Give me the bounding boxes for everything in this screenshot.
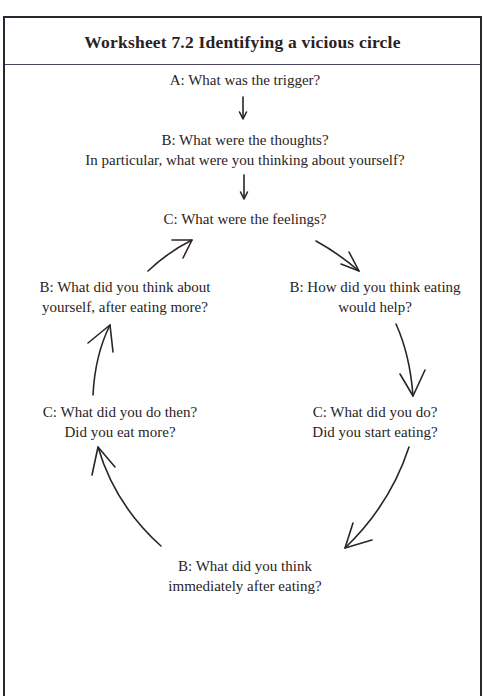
node-thoughts-line2: In particular, what were you thinking ab… bbox=[0, 150, 490, 170]
node-eating-help-line1: B: How did you think eating bbox=[270, 277, 480, 297]
node-do-then: C: What did you do then? Did you eat mor… bbox=[30, 402, 210, 442]
node-feelings: C: What were the feelings? bbox=[0, 209, 490, 229]
node-do-then-line2: Did you eat more? bbox=[30, 422, 210, 442]
node-thoughts: B: What were the thoughts? In particular… bbox=[0, 130, 490, 170]
node-think-about-self: B: What did you think about yourself, af… bbox=[20, 277, 230, 317]
node-after-eating-line1: B: What did you think bbox=[0, 556, 490, 576]
node-trigger-line1: A: What was the trigger? bbox=[0, 70, 490, 90]
node-think-about-self-line1: B: What did you think about bbox=[20, 277, 230, 297]
node-feelings-line1: C: What were the feelings? bbox=[0, 209, 490, 229]
node-did-do-line2: Did you start eating? bbox=[300, 422, 450, 442]
node-eating-help-line2: would help? bbox=[270, 297, 480, 317]
node-did-do: C: What did you do? Did you start eating… bbox=[300, 402, 450, 442]
node-after-eating: B: What did you think immediately after … bbox=[0, 556, 490, 596]
node-thoughts-line1: B: What were the thoughts? bbox=[0, 130, 490, 150]
node-did-do-line1: C: What did you do? bbox=[300, 402, 450, 422]
worksheet-title: Worksheet 7.2 Identifying a vicious circ… bbox=[84, 32, 400, 53]
node-think-about-self-line2: yourself, after eating more? bbox=[20, 297, 230, 317]
node-after-eating-line2: immediately after eating? bbox=[0, 576, 490, 596]
node-eating-help: B: How did you think eating would help? bbox=[270, 277, 480, 317]
worksheet-header: Worksheet 7.2 Identifying a vicious circ… bbox=[5, 18, 480, 65]
node-trigger: A: What was the trigger? bbox=[0, 70, 490, 90]
node-do-then-line1: C: What did you do then? bbox=[30, 402, 210, 422]
